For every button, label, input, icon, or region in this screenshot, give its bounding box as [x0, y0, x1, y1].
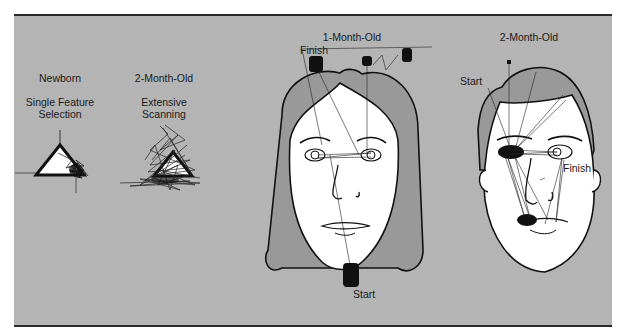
- two-month-triangle-caption-line2: Scanning: [142, 108, 186, 120]
- one-month-face-start-label: Start: [353, 288, 375, 300]
- two-month-triangle-stimulus: [120, 125, 200, 190]
- two-month-face-start-label: Start: [460, 75, 482, 87]
- two-month-triangle-caption-line1: Extensive: [141, 96, 187, 108]
- newborn-age-label: Newborn: [39, 72, 81, 84]
- newborn-triangle-stimulus: [15, 130, 88, 193]
- one-month-face-finish-label: Finish: [300, 44, 328, 56]
- two-month-face-age-label: 2-Month-Old: [500, 31, 558, 43]
- two-month-face-finish-label: Finish: [563, 162, 591, 174]
- two-month-triangle-age-label: 2-Month-Old: [135, 72, 193, 84]
- one-month-face-age-label: 1-Month-Old: [323, 31, 381, 43]
- newborn-caption-line1: Single Feature: [26, 96, 94, 108]
- newborn-caption-line2: Selection: [38, 108, 81, 120]
- one-month-face-stimulus: [266, 47, 432, 287]
